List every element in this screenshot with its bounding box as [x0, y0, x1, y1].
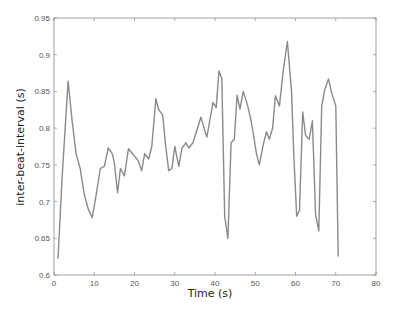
- y-tick-label: 0.65: [34, 234, 50, 243]
- x-tick-label: 0: [52, 279, 57, 288]
- x-tick-label: 20: [130, 279, 139, 288]
- x-tick-label: 60: [291, 279, 300, 288]
- y-tick-label: 0.75: [34, 161, 50, 170]
- x-tick-label: 80: [372, 279, 381, 288]
- x-axis-label: Time (s): [187, 287, 233, 300]
- x-tick-label: 70: [331, 279, 340, 288]
- y-tick-label: 0.85: [34, 87, 50, 96]
- y-tick-label: 0.8: [39, 124, 51, 133]
- x-tick-label: 30: [170, 279, 179, 288]
- y-tick-label: 0.95: [34, 14, 50, 23]
- y-tick-label: 0.9: [39, 51, 51, 60]
- x-tick-label: 50: [251, 279, 260, 288]
- plot-area: [54, 18, 376, 275]
- y-axis-label: inter-beat-interval (s): [14, 88, 27, 205]
- line-chart: 01020304050607080 0.60.650.70.750.80.850…: [0, 0, 398, 312]
- y-tick-label: 0.7: [39, 198, 51, 207]
- y-tick-label: 0.6: [39, 271, 51, 280]
- x-tick-label: 10: [90, 279, 99, 288]
